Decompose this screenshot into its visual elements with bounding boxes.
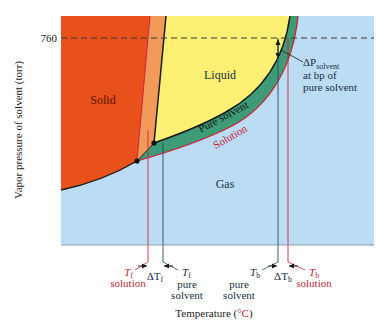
delta-tb-label: ΔTb bbox=[274, 270, 292, 284]
tb-pure-label: Tb bbox=[250, 266, 260, 280]
liquid-label: Liquid bbox=[204, 68, 236, 82]
solution-triple-point bbox=[134, 158, 139, 163]
solid-label: Solid bbox=[90, 93, 115, 107]
y-axis-label: Vapor pressure of solvent (torr) bbox=[12, 61, 25, 199]
tb-pure-line3: solvent bbox=[223, 289, 255, 301]
tf-pure-line3: solvent bbox=[171, 289, 203, 301]
gas-label: Gas bbox=[216, 177, 235, 191]
x-axis-label: Temperature (°C) bbox=[175, 307, 253, 320]
delta-p-line3: pure solvent bbox=[303, 81, 357, 93]
delta-tf-label: ΔTf bbox=[147, 270, 164, 284]
pure-triple-point bbox=[151, 140, 156, 145]
phase-diagram: 760 Vapor pressure of solvent (torr) Sol… bbox=[0, 0, 384, 325]
delta-p-line2: at bp of bbox=[303, 69, 337, 81]
y-tick-760: 760 bbox=[41, 32, 58, 44]
tb-solution-word: solution bbox=[296, 277, 332, 289]
delta-tb-arrowhead-right bbox=[289, 264, 294, 269]
tf-solution-word: solution bbox=[110, 277, 146, 289]
delta-tb-arrowhead-left bbox=[272, 264, 277, 269]
